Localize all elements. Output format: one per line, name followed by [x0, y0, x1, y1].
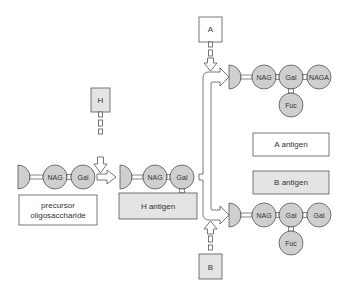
connector	[209, 42, 213, 47]
bond	[289, 89, 294, 93]
legend-label: H antigen	[141, 202, 175, 211]
sugar-label: Gal	[286, 74, 297, 81]
connector	[209, 50, 213, 56]
enzyme-h: H	[91, 88, 110, 173]
bond	[303, 75, 307, 80]
legend-label: precursor	[41, 201, 75, 210]
arrow-up-icon	[204, 221, 217, 234]
branch-arrow-icon	[199, 68, 229, 224]
ceramide-anchor-icon	[120, 165, 132, 189]
sugar-label: NAG	[256, 212, 271, 219]
bond	[180, 189, 185, 193]
ceramide-anchor-icon	[229, 65, 241, 89]
legend-label: B antigen	[274, 178, 308, 187]
sugar-label: Gal	[78, 174, 89, 181]
bond	[67, 175, 71, 180]
connector	[99, 129, 103, 134]
sugar-label: NAG	[256, 74, 271, 81]
abo-antigen-diagram: .sug { fill: #cfcfcf; stroke: #555; stro…	[0, 0, 348, 291]
bond	[132, 175, 143, 179]
b-antigen-chain: NAG Gal Gal Fuc	[229, 203, 331, 255]
bond	[289, 227, 294, 231]
sugar-label: Fuc	[285, 102, 297, 109]
arrow-down-icon	[94, 157, 107, 173]
sugar-label: Gal	[314, 212, 325, 219]
enzyme-b: B	[199, 221, 222, 279]
bond	[276, 213, 279, 218]
sugar-label: NAG	[47, 174, 62, 181]
branch-tube	[199, 68, 229, 224]
enzyme-a: A	[199, 17, 222, 71]
legend-precursor: precursor oligosaccharide	[19, 195, 97, 225]
bond	[303, 213, 307, 218]
arrow-down-icon	[204, 58, 217, 71]
legend-a-antigen: A antigen	[253, 133, 329, 156]
legend-label: oligosaccharide	[30, 211, 86, 220]
bond	[167, 175, 170, 180]
bond	[30, 175, 43, 179]
ceramide-anchor-icon	[18, 165, 30, 189]
connector	[99, 120, 103, 126]
bond	[276, 75, 279, 80]
a-antigen-chain: NAG Gal NAGA Fuc	[229, 65, 331, 117]
enzyme-label: H	[98, 96, 104, 105]
sugar-label: Gal	[177, 174, 188, 181]
legend-h-antigen: H antigen	[119, 193, 197, 219]
connector	[209, 245, 213, 250]
precursor-chain: NAG Gal	[18, 165, 95, 189]
connector	[209, 236, 213, 242]
bond	[241, 213, 252, 217]
sugar-label: Gal	[286, 212, 297, 219]
sugar-label: NAGA	[309, 74, 329, 81]
ceramide-anchor-icon	[229, 203, 241, 227]
enzyme-label: B	[208, 263, 213, 272]
sugar-label: NAG	[147, 174, 162, 181]
legend-label: A antigen	[274, 140, 307, 149]
enzyme-label: A	[208, 25, 214, 34]
sugar-label: Fuc	[285, 240, 297, 247]
legend-b-antigen: B antigen	[253, 171, 329, 194]
connector	[99, 112, 103, 117]
bond	[241, 75, 252, 79]
